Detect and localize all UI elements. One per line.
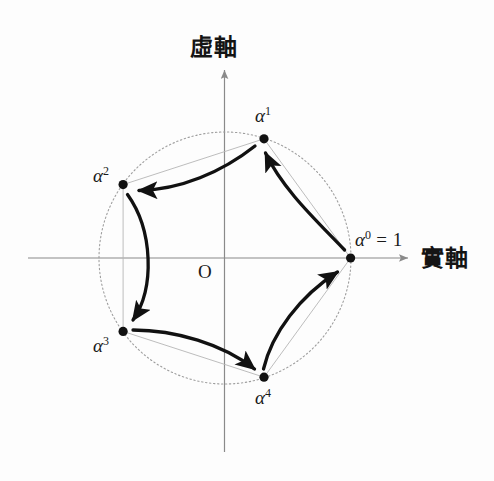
- chord-alpha4-alpha0: [264, 258, 351, 377]
- label-alpha3-base: α: [93, 335, 103, 356]
- arrow-alpha2-to-alpha3: [128, 195, 149, 321]
- point-alpha1: [259, 134, 268, 143]
- label-alpha4-exponent: 4: [265, 386, 271, 400]
- arrow-alpha4-to-alpha0: [264, 272, 338, 369]
- complex-plane-figure: 虛軸 實軸 O α1 α2 α3 α4 α0 = 1: [0, 0, 494, 481]
- label-alpha2: α2: [93, 165, 109, 185]
- point-alpha4: [259, 373, 268, 382]
- label-alpha3: α3: [93, 335, 109, 355]
- point-alpha2: [119, 180, 128, 189]
- label-alpha4: α4: [255, 387, 271, 407]
- real-axis-label: 實軸: [421, 247, 469, 270]
- chord-alpha0-alpha1: [264, 139, 351, 258]
- label-alpha0-suffix: = 1: [371, 229, 403, 250]
- figure-canvas: [0, 0, 494, 481]
- point-alpha3: [119, 327, 128, 336]
- label-alpha4-base: α: [255, 387, 265, 408]
- label-alpha2-exponent: 2: [103, 164, 109, 178]
- label-alpha2-base: α: [93, 165, 103, 186]
- origin-label: O: [198, 262, 212, 281]
- label-alpha1-exponent: 1: [265, 104, 271, 118]
- point-alpha0: [346, 253, 355, 262]
- arrow-alpha3-to-alpha4: [133, 330, 255, 369]
- label-alpha0: α0 = 1: [355, 229, 403, 249]
- label-alpha0-base: α: [355, 229, 365, 250]
- arrow-alpha0-to-alpha1: [266, 153, 345, 250]
- imaginary-axis-label: 虛軸: [190, 36, 238, 59]
- label-alpha1: α1: [255, 105, 271, 125]
- label-alpha1-base: α: [255, 105, 265, 126]
- label-alpha3-exponent: 3: [103, 334, 109, 348]
